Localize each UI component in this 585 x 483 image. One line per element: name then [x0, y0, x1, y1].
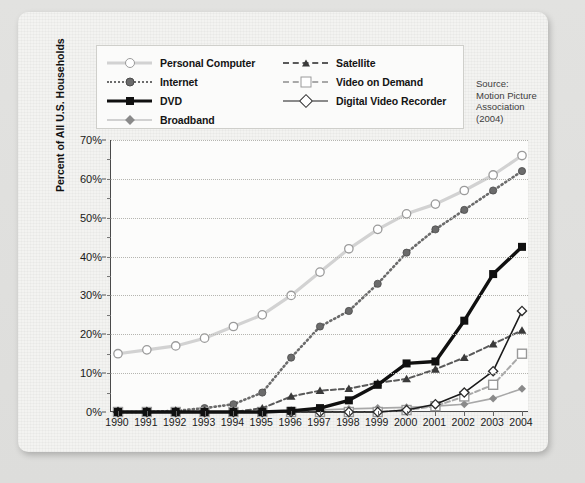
x-tick-label: 1994 — [221, 416, 244, 428]
legend-swatch-internet — [107, 75, 152, 89]
gridline — [111, 140, 528, 141]
data-point-personal_computer — [258, 311, 266, 319]
data-point-dvd — [460, 317, 468, 325]
source-line-1: Source: — [476, 78, 572, 90]
y-minor-tick — [107, 315, 111, 316]
y-tick-label: 60% — [80, 173, 102, 185]
y-tick-label: 50% — [80, 212, 102, 224]
data-point-dvd — [403, 359, 411, 367]
y-tick-mark — [102, 334, 106, 335]
legend-swatch-video-on-demand — [283, 75, 328, 89]
y-tick-mark — [102, 373, 106, 374]
y-axis-ticks: 0%10%20%30%40%50%60%70% — [70, 140, 106, 412]
data-point-internet — [490, 187, 497, 194]
x-tick-label: 1996 — [278, 416, 301, 428]
data-point-personal_computer — [374, 225, 382, 233]
gridline — [111, 179, 528, 180]
chart-card: Personal Computer Internet DVD — [18, 12, 548, 452]
legend-item-broadband[interactable]: Broadband — [107, 110, 255, 129]
x-tick-label: 1991 — [134, 416, 157, 428]
data-point-dvd — [518, 243, 526, 251]
x-tick-label: 2003 — [480, 416, 503, 428]
data-point-internet — [316, 323, 323, 330]
source-note: Source: Motion Picture Association (2004… — [476, 78, 572, 124]
data-point-personal_computer — [114, 350, 122, 358]
x-tick-label: 2004 — [509, 416, 532, 428]
x-tick-label: 1997 — [307, 416, 330, 428]
y-minor-tick — [107, 373, 111, 374]
data-point-dvd — [374, 381, 382, 389]
data-point-dvd — [431, 357, 439, 365]
y-tick-mark — [102, 178, 106, 179]
legend-column-left: Personal Computer Internet DVD — [107, 53, 255, 129]
y-minor-tick — [107, 257, 111, 258]
legend-item-personal-computer[interactable]: Personal Computer — [107, 53, 255, 72]
data-point-personal_computer — [518, 151, 526, 159]
data-point-internet — [345, 307, 352, 314]
x-axis-labels: 1990199119921993199419951996199719981999… — [110, 416, 528, 434]
y-minor-tick — [107, 198, 111, 199]
chart-legend: Personal Computer Internet DVD — [96, 45, 464, 129]
data-point-internet — [461, 206, 468, 213]
data-point-video_on_demand — [489, 380, 498, 389]
y-tick-label: 70% — [80, 134, 102, 146]
legend-item-dvd[interactable]: DVD — [107, 91, 255, 110]
x-tick-label: 1992 — [163, 416, 186, 428]
legend-swatch-personal-computer — [107, 56, 152, 70]
y-minor-tick — [107, 295, 111, 296]
legend-label-internet: Internet — [160, 76, 198, 88]
x-tick-label: 1990 — [105, 416, 128, 428]
data-point-broadband — [489, 394, 497, 402]
legend-label-video-on-demand: Video on Demand — [336, 76, 423, 88]
gridline — [111, 257, 528, 258]
source-line-2: Motion Picture — [476, 90, 572, 102]
legend-swatch-digital-video-recorder — [283, 94, 328, 108]
y-minor-tick — [107, 393, 111, 394]
gridline — [111, 334, 528, 335]
data-point-personal_computer — [431, 200, 439, 208]
legend-item-satellite[interactable]: Satellite — [283, 53, 446, 72]
legend-swatch-broadband — [107, 113, 152, 127]
y-minor-tick — [107, 276, 111, 277]
gridline — [111, 295, 528, 296]
data-point-personal_computer — [316, 268, 324, 276]
screenshot-page: Personal Computer Internet DVD — [0, 0, 585, 483]
y-tick-mark — [102, 412, 106, 413]
legend-item-digital-video-recorder[interactable]: Digital Video Recorder — [283, 91, 446, 110]
legend-item-internet[interactable]: Internet — [107, 72, 255, 91]
series-lines — [111, 140, 529, 412]
y-minor-tick — [107, 218, 111, 219]
y-minor-tick — [107, 179, 111, 180]
data-point-internet — [288, 354, 295, 361]
y-axis-title: Percent of All U.S. Households — [54, 38, 66, 192]
data-point-internet — [374, 280, 381, 287]
legend-item-video-on-demand[interactable]: Video on Demand — [283, 72, 446, 91]
y-minor-tick — [107, 334, 111, 335]
y-tick-label: 40% — [80, 251, 102, 263]
x-tick-label: 2000 — [394, 416, 417, 428]
data-point-internet — [432, 226, 439, 233]
y-tick-label: 10% — [80, 367, 102, 379]
y-minor-tick — [107, 354, 111, 355]
series-internet — [114, 167, 525, 415]
data-point-video_on_demand — [518, 349, 527, 358]
legend-label-broadband: Broadband — [160, 114, 215, 126]
data-point-internet — [259, 389, 266, 396]
x-tick-label: 1998 — [336, 416, 359, 428]
legend-label-personal-computer: Personal Computer — [160, 57, 255, 69]
gridline — [111, 218, 528, 219]
y-tick-mark — [102, 256, 106, 257]
y-minor-tick — [107, 237, 111, 238]
legend-label-digital-video-recorder: Digital Video Recorder — [336, 95, 446, 107]
x-tick-label: 2002 — [452, 416, 475, 428]
plot-area: Percent of All U.S. Households 0%10%20%3… — [56, 140, 531, 435]
data-point-satellite — [518, 326, 527, 334]
y-tick-mark — [102, 217, 106, 218]
data-point-dvd — [345, 396, 353, 404]
legend-label-dvd: DVD — [160, 95, 182, 107]
data-point-satellite — [431, 365, 440, 373]
y-tick-label: 30% — [80, 289, 102, 301]
y-minor-tick — [107, 159, 111, 160]
y-tick-mark — [102, 295, 106, 296]
data-point-personal_computer — [345, 245, 353, 253]
